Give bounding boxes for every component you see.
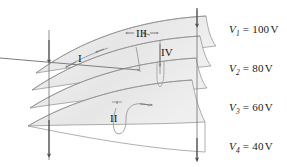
path-label-IV: IV xyxy=(161,46,173,58)
equipotential-label-1: V1 = 100 V xyxy=(229,23,279,38)
equipotential-label-4: V4 = 40 V xyxy=(229,140,273,155)
equipotential-label-3: V3 = 60 V xyxy=(229,101,273,116)
path-label-I: I xyxy=(78,52,82,64)
path-label-II: II xyxy=(110,112,117,124)
equipotential-surfaces-figure: V1 = 100 V V2 = 80 V V3 = 60 V V4 = 40 V… xyxy=(0,0,287,167)
equipotential-label-2: V2 = 80 V xyxy=(229,62,273,77)
path-label-III: III xyxy=(136,27,147,39)
